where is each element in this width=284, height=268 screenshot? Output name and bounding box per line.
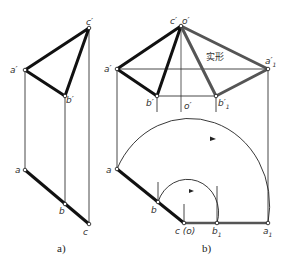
point-c: [182, 221, 186, 225]
caption-b: b): [202, 242, 212, 255]
caption-a: a): [57, 242, 66, 255]
label-c-prime: c′: [170, 16, 177, 26]
label-a-prime: a′: [104, 64, 112, 74]
rotation-arc-a: [117, 118, 270, 223]
label-b1-prime: b′1: [218, 98, 230, 110]
true-shape-label: 实形: [206, 51, 224, 62]
projection-diagram: c′ a′ b′ a b c a): [0, 0, 284, 268]
label-b: b: [59, 206, 65, 216]
label-c-o: c (o): [175, 226, 195, 236]
arrow-arc-b: [189, 189, 194, 193]
label-b-prime: b′: [146, 98, 154, 108]
label-o-prime-top: o′: [182, 16, 190, 26]
label-a-prime: a′: [10, 65, 18, 75]
front-view-triangle: [25, 28, 89, 96]
rotation-arc-b: [158, 179, 219, 223]
label-o-prime-mid: o′: [184, 101, 192, 111]
front-view-triangle: [117, 26, 181, 96]
label-a1-prime: a′1: [265, 56, 276, 68]
point-a-prime: [23, 68, 27, 72]
point-b-prime: [155, 94, 159, 98]
panel-b: c′ o′ 实形 a′ a′1 b′ o′ b′1 a b c (o) b1 a…: [104, 16, 276, 255]
point-a: [23, 168, 27, 172]
label-a1: a1: [263, 226, 272, 238]
point-b1: [215, 221, 219, 225]
label-b-prime: b′: [66, 95, 74, 105]
label-a: a: [106, 165, 112, 175]
point-a1-prime: [266, 67, 270, 71]
label-a: a: [15, 165, 21, 175]
arrow-arc-a: [210, 137, 216, 142]
label-b: b: [151, 205, 157, 215]
point-a-prime: [115, 67, 119, 71]
label-b1: b1: [212, 226, 222, 238]
point-c: [87, 222, 91, 226]
true-shape-triangle: [181, 26, 268, 96]
label-c-prime: c′: [86, 17, 93, 27]
panel-a: c′ a′ b′ a b c a): [10, 17, 93, 255]
point-a1: [266, 221, 270, 225]
label-c: c: [83, 227, 88, 237]
top-view-edge: [25, 170, 89, 224]
point-a: [115, 167, 119, 171]
point-b: [156, 200, 160, 204]
